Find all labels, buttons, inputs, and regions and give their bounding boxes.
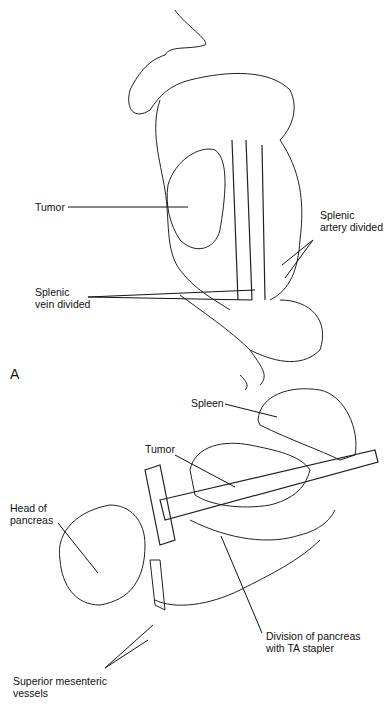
label-tumor-a: Tumor <box>35 201 65 213</box>
surgical-illustration <box>0 0 391 710</box>
label-spleen: Spleen <box>191 397 224 409</box>
panel-b-drawing <box>59 389 378 610</box>
panel-a-drawing <box>129 10 323 390</box>
panel-letter-a: A <box>10 366 19 382</box>
label-splenic-vein-divided: Splenic vein divided <box>35 286 90 310</box>
label-superior-mesenteric-vessels: Superior mesenteric vessels <box>13 675 107 699</box>
label-splenic-artery-divided: Splenic artery divided <box>320 209 383 233</box>
label-division-ta-stapler: Division of pancreas with TA stapler <box>266 630 361 654</box>
label-tumor-b: Tumor <box>145 443 175 455</box>
label-head-of-pancreas: Head of pancreas <box>10 502 53 526</box>
